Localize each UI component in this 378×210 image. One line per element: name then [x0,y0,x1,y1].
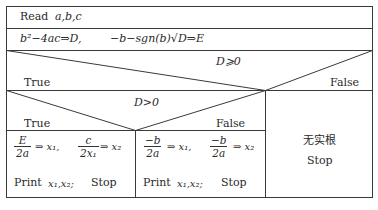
branch2-assign2: ⇒ x₂ [233,141,254,153]
branch1-assign1: ⇒ x₁, [35,141,59,153]
branch2-frac2-numerator: −b [209,135,229,146]
branch1-fraction1: E 2a [14,135,31,159]
branch2-print-vars: x₁,x₂; [177,178,203,190]
decision1-false-label: False [330,77,359,89]
decision2-false-label: False [216,118,245,130]
compute-e: −b−sgn(b)√D⇒E [110,33,204,45]
branch2-assign1: ⇒ x₁, [167,141,191,153]
read-keyword: Read [20,11,48,23]
branch1-frac2-numerator: c [83,135,93,146]
decision1-condition: D⩾0 [216,56,241,68]
branch1-fraction2: c 2x₁ [78,135,99,159]
branch2-frac1-denominator: 2a [144,146,161,159]
branch1-print-vars: x₁,x₂; [48,178,74,190]
branch2-fraction1: −b 2a [143,135,163,159]
branch1-assign2: ⇒ x₂ [100,141,121,153]
branch2-frac1-numerator: −b [143,135,163,146]
no-real-roots-label: 无实根 [303,135,336,147]
read-vars: a,b,c [55,11,82,23]
branch2-fraction2: −b 2a [209,135,229,159]
decision2-condition: D>0 [134,97,159,109]
branch3-stop: Stop [307,155,333,167]
branch1-print: Print [14,177,42,189]
branch1-stop: Stop [91,177,117,189]
decision1-true-label: True [24,77,50,89]
branch2-frac2-denominator: 2a [210,146,227,159]
branch1-frac1-numerator: E [17,135,29,146]
branch2-stop: Stop [221,177,247,189]
compute-discriminant: b²−4ac⇒D, [20,33,82,45]
branch1-frac1-denominator: 2a [14,146,31,159]
branch1-frac2-denominator: 2x₁ [78,146,99,159]
branch2-print: Print [143,177,171,189]
decision2-true-label: True [24,118,50,130]
